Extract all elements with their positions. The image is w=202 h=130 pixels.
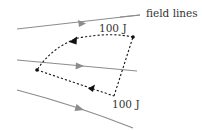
field-lines-label: field lines: [146, 7, 198, 19]
path-segment-right: [114, 37, 133, 96]
field-line-middle-arrow-icon: [76, 63, 85, 70]
closed-path: [35, 35, 135, 96]
vertex-top-right: [131, 35, 135, 39]
field-line-bottom-arrow-icon: [75, 104, 85, 111]
path-segment-lower: [37, 70, 114, 96]
work-label-top: 100 J: [99, 22, 127, 34]
work-label-bottom: 100 J: [112, 98, 140, 110]
path-lower-arrow-icon: [88, 85, 95, 93]
field-lines-leader: [120, 15, 140, 17]
path-arc-arrow-icon: [69, 37, 77, 45]
field-lines-diagram: field lines 100 J 100 J: [0, 0, 202, 130]
path-segment-arc: [37, 35, 133, 70]
vertex-left: [35, 68, 39, 72]
